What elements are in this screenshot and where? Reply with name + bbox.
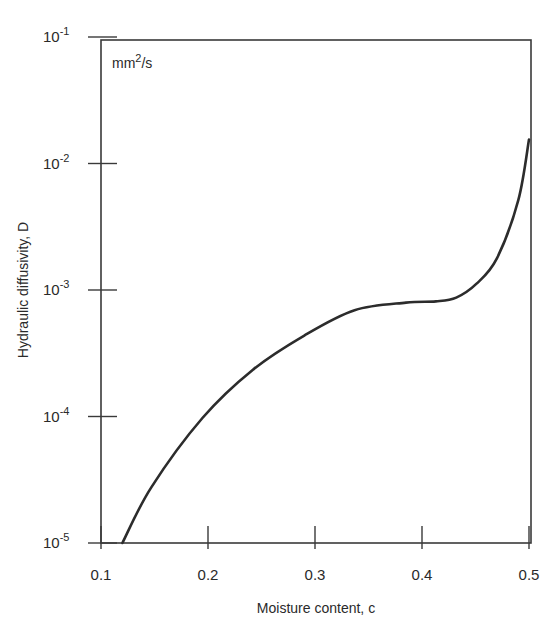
y-tick-label: 10-4 (43, 405, 69, 425)
y-axis-ticks: 10-110-210-310-410-5 (43, 25, 117, 551)
x-tick-label: 0.1 (91, 566, 112, 583)
y-tick-label: 10-2 (43, 152, 69, 172)
y-tick-label: 10-3 (43, 278, 69, 298)
x-axis-title: Moisture content, c (257, 600, 375, 616)
y-tick-label: 10-5 (43, 531, 69, 551)
unit-annotation: mm2/s (112, 52, 152, 71)
x-axis-ticks: 0.10.20.30.40.5 (91, 526, 540, 583)
x-tick-label: 0.4 (412, 566, 433, 583)
diffusivity-chart: 0.10.20.30.40.5 10-110-210-310-410-5 mm2… (0, 0, 557, 632)
x-tick-label: 0.5 (519, 566, 540, 583)
data-line (122, 139, 529, 543)
x-tick-label: 0.3 (305, 566, 326, 583)
y-tick-label: 10-1 (43, 25, 69, 45)
x-tick-label: 0.2 (198, 566, 219, 583)
y-axis-title: Hydraulic diffusivity, D (15, 222, 31, 358)
